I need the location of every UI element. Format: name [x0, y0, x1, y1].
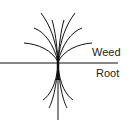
root-label: Root [96, 68, 119, 79]
weed-root-diagram [0, 0, 135, 124]
weed-label: Weed [92, 47, 121, 58]
weed-strands [24, 13, 92, 62]
